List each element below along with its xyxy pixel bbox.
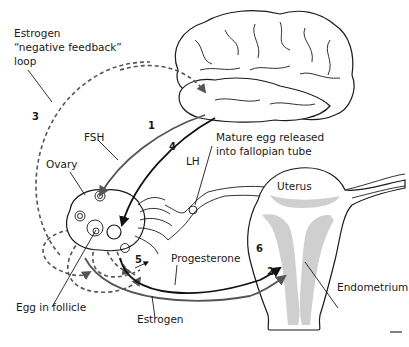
menstrual-cycle-diagram: Estrogen “negative feedback” loop FSH LH…	[0, 0, 409, 347]
step-5: 5	[135, 254, 142, 265]
label-progesterone: Progesterone	[171, 252, 240, 264]
label-lh: LH	[186, 155, 200, 167]
uterus-illustration	[248, 168, 405, 330]
brain-illustration	[120, 11, 354, 122]
step-1: 1	[148, 120, 155, 131]
label-endometrium: Endometrium	[337, 281, 408, 293]
step-2: 2	[267, 266, 274, 277]
step-3: 3	[32, 111, 39, 122]
label-loop: loop	[14, 55, 37, 67]
label-uterus: Uterus	[277, 180, 312, 192]
label-mature-egg: Mature egg released	[216, 131, 324, 143]
label-estrogen-feedback: Estrogen	[14, 27, 61, 39]
negative-feedback-loop	[36, 62, 150, 292]
label-fallopian-tube: into fallopian tube	[216, 145, 312, 157]
label-negative-feedback: “negative feedback”	[14, 41, 122, 53]
step-4: 4	[169, 141, 176, 152]
label-fsh: FSH	[84, 131, 104, 143]
label-ovary: Ovary	[46, 158, 77, 170]
step-6: 6	[256, 243, 263, 254]
label-estrogen: Estrogen	[137, 313, 184, 325]
label-egg-in-follicle: Egg in follicle	[16, 301, 86, 313]
